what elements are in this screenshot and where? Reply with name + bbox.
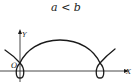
x-axis	[0, 69, 129, 73]
origin-label: O	[11, 61, 17, 70]
y-axis-label: Y	[22, 31, 28, 39]
trochoid-diagram: Y O X	[0, 0, 132, 82]
trochoid-curve	[5, 40, 115, 78]
x-axis-label: X	[125, 68, 132, 76]
